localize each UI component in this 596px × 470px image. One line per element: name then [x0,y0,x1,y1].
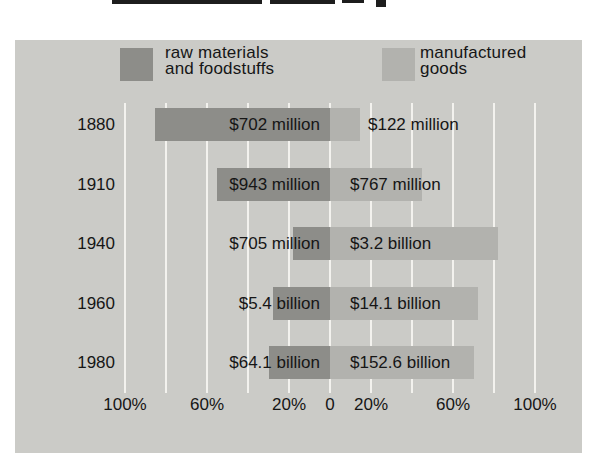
value-label-manufactured: $152.6 billion [350,353,450,373]
bar-manufactured [330,108,360,141]
axis-tick-label: 100% [495,395,575,415]
value-label-raw-materials: $943 million [60,175,320,195]
value-label-raw-materials: $5.4 billion [60,294,320,314]
cropped-title-fragment [342,0,364,3]
value-label-manufactured: $122 million [368,115,459,135]
legend-swatch-raw-materials-icon [120,48,153,81]
value-label-raw-materials: $702 million [60,115,320,135]
legend-label-raw-materials: raw materials and foodstuffs [165,45,274,77]
axis-tick-label: 60% [413,395,493,415]
axis-gridline [534,103,536,393]
legend-label-raw-line2: and foodstuffs [165,59,274,78]
axis-tick-label: 100% [85,395,165,415]
legend-label-mfg-line2: goods [420,59,467,78]
cropped-title-fragment [376,0,386,7]
value-label-manufactured: $14.1 billion [350,294,441,314]
legend-swatch-manufactured-icon [382,48,415,81]
chart-legend: raw materials and foodstuffs manufacture… [15,40,582,100]
chart-panel: raw materials and foodstuffs manufacture… [15,40,582,453]
legend-label-manufactured: manufactured goods [420,45,526,77]
axis-tick-label: 20% [331,395,411,415]
cropped-title-fragment [270,0,335,4]
value-label-manufactured: $767 million [350,175,441,195]
cropped-title-fragment [112,0,262,4]
value-label-raw-materials: $705 million [60,234,320,254]
value-label-manufactured: $3.2 billion [350,234,431,254]
axis-tick-label: 60% [167,395,247,415]
value-label-raw-materials: $64.1 billion [60,353,320,373]
chart-figure: raw materials and foodstuffs manufacture… [0,0,596,470]
